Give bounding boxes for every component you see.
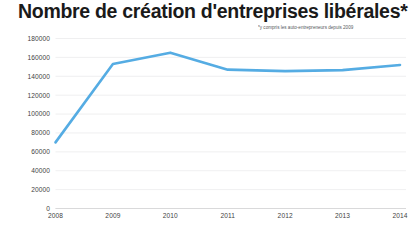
x-tick-label: 2012 xyxy=(262,212,308,220)
x-tick-label: 2009 xyxy=(90,212,136,220)
x-tick-label: 2014 xyxy=(377,212,413,220)
x-axis-tick-labels: 2008200920102011201220132014 xyxy=(0,0,413,231)
x-tick-label: 2013 xyxy=(320,212,366,220)
chart-figure: Nombre de création d'entreprises libéral… xyxy=(0,0,413,231)
x-tick-label: 2010 xyxy=(147,212,193,220)
x-tick-label: 2008 xyxy=(33,212,79,220)
x-tick-label: 2011 xyxy=(205,212,251,220)
